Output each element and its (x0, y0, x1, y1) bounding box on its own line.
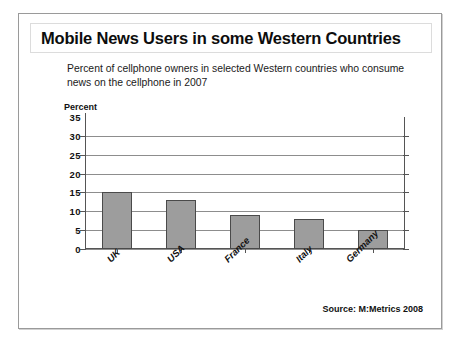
y-axis-tick-label: 15 (59, 187, 81, 198)
y-axis-tick-label: 25 (59, 149, 81, 160)
x-label-slot: France (213, 252, 277, 302)
x-label-slot: UK (85, 252, 149, 302)
slide-frame: Mobile News Users in some Western Countr… (18, 13, 442, 329)
y-axis-tick-label: 35 (59, 112, 81, 123)
y-axis-tick-label: 30 (59, 130, 81, 141)
y-axis-title: Percent (64, 102, 97, 112)
y-axis-tick-labels: 05101520253035 (39, 113, 81, 253)
bar-slot (213, 113, 277, 249)
bar-series (85, 113, 405, 249)
slide-title-box: Mobile News Users in some Western Countr… (30, 23, 432, 53)
page-title: Mobile News Users in some Western Countr… (31, 29, 401, 48)
source-note: Source: M:Metrics 2008 (322, 304, 423, 314)
x-axis-tick-labels: UKUSAFranceItalyGermany (85, 252, 405, 302)
y-axis-tick (80, 249, 86, 250)
chart-subtitle: Percent of cellphone owners in selected … (67, 62, 417, 89)
x-label-slot: Germany (341, 252, 405, 302)
y-axis-tick-label: 10 (59, 206, 81, 217)
plot-area (85, 113, 405, 249)
bar[interactable] (166, 200, 195, 249)
bar[interactable] (102, 192, 131, 249)
bar-slot (149, 113, 213, 249)
y-axis-tick-label: 5 (59, 225, 81, 236)
y-axis-tick-label: 0 (59, 244, 81, 255)
x-label-slot: USA (149, 252, 213, 302)
x-label-slot: Italy (277, 252, 341, 302)
bar-slot (85, 113, 149, 249)
bar-slot (277, 113, 341, 249)
y-axis-tick-label: 20 (59, 168, 81, 179)
bar-chart: 05101520253035 UKUSAFranceItalyGermany (39, 113, 424, 303)
y-axis-tick-right (403, 249, 409, 250)
